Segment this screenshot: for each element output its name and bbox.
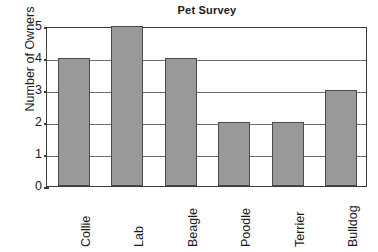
gridline	[47, 124, 366, 125]
gridline	[47, 92, 366, 93]
bar	[272, 122, 304, 186]
bar	[111, 26, 143, 186]
x-axis-labels: CollieLabBeaglePoodleTerrierBulldog	[46, 189, 367, 251]
bar-chart: Pet Survey Number of Owners 012345 Colli…	[0, 0, 378, 252]
bar	[165, 58, 197, 186]
y-tick-label: 4	[20, 52, 42, 65]
chart-title: Pet Survey	[46, 4, 368, 16]
y-tick-label: 0	[20, 180, 42, 193]
y-axis-ticks: 012345	[12, 27, 42, 187]
y-tick-label: 5	[20, 20, 42, 33]
bar	[58, 58, 90, 186]
bar	[325, 90, 357, 186]
gridline	[47, 60, 366, 61]
x-tick-label: Lab	[132, 226, 146, 247]
x-tick-label: Collie	[79, 216, 93, 247]
x-tick-label: Poodle	[239, 208, 253, 247]
bar	[218, 122, 250, 186]
x-tick-label: Bulldog	[346, 205, 360, 247]
gridline	[47, 156, 366, 157]
x-tick-label: Beagle	[186, 208, 200, 247]
y-tick-label: 3	[20, 84, 42, 97]
x-tick-label: Terrier	[293, 212, 307, 247]
y-tick-label: 2	[20, 116, 42, 129]
plot-area	[46, 27, 367, 187]
y-tick-label: 1	[20, 148, 42, 161]
